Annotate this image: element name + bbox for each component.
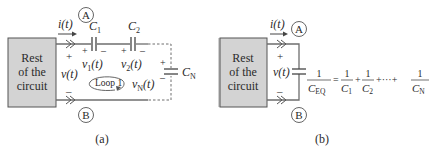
voltage-label-a: v(t) [61,67,78,81]
eq-t2-den: C2 [362,82,373,96]
box-line-1: Rest [21,51,43,65]
eq-t2-num: 1 [366,68,371,79]
current-label-b: i(t) [270,17,285,31]
box-b-line-1: Rest [232,51,254,65]
current-arrowhead-b-icon [283,32,288,37]
minus-sign: – [65,85,72,97]
v2-label: v2(t) [121,57,142,73]
c1-label: C1 [89,19,101,35]
ceq-equation: 1 CEQ = 1 C1 + 1 C2 +···+ 1 CN [307,68,429,96]
cn-plus: + [160,57,166,68]
eq-lhs-num: 1 [317,68,322,79]
c1-plus: + [82,45,88,56]
eq-ellipsis: +···+ [376,74,398,85]
eq-lhs-den: CEQ [308,82,326,96]
eq-tn-num: 1 [418,68,423,79]
vn-label: vN(t) [132,77,154,93]
box-b-line-3: circuit [228,79,259,93]
box-line-3: circuit [17,79,48,93]
eq-equals: = [333,74,339,85]
minus-sign-b: – [276,85,283,97]
eq-tn-den: CN [412,82,425,96]
current-label-a: i(t) [58,17,73,31]
eq-t1-den: C1 [341,82,352,96]
v1-label: v1(t) [82,57,103,73]
caption-b: (b) [315,132,329,146]
c2-plus: + [121,45,127,56]
voltage-label-b: v(t) [273,65,290,79]
panel-b: Rest of the circuit i(t) A B + v(t) – 1 … [220,17,429,146]
c2-label: C2 [128,19,140,35]
eq-t1-num: 1 [345,68,350,79]
node-a-b-label: A [295,23,303,35]
plus-sign: + [66,50,72,62]
plus-sign-b: + [277,50,283,62]
node-b-label: B [82,109,89,121]
c1-minus: – [100,45,107,56]
loop-label: Loop 1 [95,78,122,88]
cn-minus: – [159,72,166,83]
eq-plus: + [355,74,361,85]
panel-a: Rest of the circuit i(t) A B + v(t) – C1… [8,8,196,147]
caption-a: (a) [95,132,108,146]
node-b-b-label: B [295,109,302,121]
box-b-line-2: of the [229,65,257,79]
current-arrowhead-icon [72,32,77,37]
circuit-diagram: Rest of the circuit i(t) A B + v(t) – C1… [0,0,438,152]
c2-minus: – [139,45,146,56]
box-line-2: of the [18,65,46,79]
cn-label: CN [182,65,196,81]
